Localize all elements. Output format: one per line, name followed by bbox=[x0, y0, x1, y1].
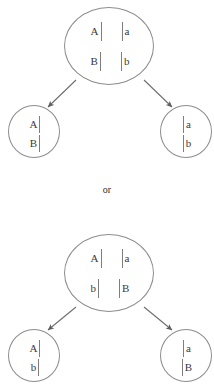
meiosis-segregation-diagram: A a B b A B a b bbox=[0, 0, 214, 384]
daughter-cell-right-outcome-two: a B bbox=[160, 329, 212, 382]
daughter-two-right-row-2: B bbox=[161, 359, 213, 376]
chromatid-bar-icon bbox=[38, 359, 39, 376]
chromatid-bar-icon bbox=[100, 52, 101, 71]
daughter-cell-left-outcome-one: A B bbox=[8, 105, 60, 158]
daughter-cell-right-outcome-one: a b bbox=[160, 105, 212, 158]
chromatid-bar-icon bbox=[39, 135, 40, 152]
chromatid-bar-icon bbox=[183, 116, 184, 133]
parent-cell-outcome-two: A a b B bbox=[64, 234, 154, 312]
daughter-one-right-row-1: a bbox=[161, 116, 213, 133]
allele-label: B bbox=[30, 138, 37, 149]
separator-label: or bbox=[0, 184, 214, 195]
parent-one-row-1: A a bbox=[65, 22, 155, 41]
chromatid-bar-icon bbox=[98, 279, 99, 298]
arrow-parent2-to-left-daughter bbox=[48, 307, 76, 330]
parent-cell-outcome-one: A a B b bbox=[64, 7, 154, 85]
chromatid-bar-icon bbox=[121, 52, 122, 71]
chromatid-bar-icon bbox=[119, 279, 120, 298]
parent-two-row-2: b B bbox=[65, 279, 155, 298]
daughter-one-left-row-2: B bbox=[9, 135, 61, 152]
chromatid-bar-icon bbox=[39, 116, 40, 133]
daughter-one-left-row-1: A bbox=[9, 116, 61, 133]
arrow-parent2-to-right-daughter bbox=[144, 307, 172, 330]
allele-label: b bbox=[124, 56, 130, 67]
chromatid-bar-icon bbox=[183, 135, 184, 152]
arrow-parent1-to-left-daughter bbox=[48, 80, 76, 107]
allele-label: a bbox=[186, 119, 191, 130]
allele-label: A bbox=[91, 26, 99, 37]
parent-two-row-1: A a bbox=[65, 249, 155, 268]
allele-label: b bbox=[91, 283, 97, 294]
allele-label: B bbox=[122, 283, 129, 294]
allele-label: A bbox=[30, 343, 38, 354]
daughter-cell-left-outcome-two: A b bbox=[8, 329, 60, 382]
daughter-one-right-row-2: b bbox=[161, 135, 213, 152]
allele-label: a bbox=[125, 26, 130, 37]
daughter-two-left-row-2: b bbox=[9, 359, 61, 376]
daughter-two-left-row-1: A bbox=[9, 340, 61, 357]
arrow-parent1-to-right-daughter bbox=[144, 80, 172, 107]
chromatid-bar-icon bbox=[182, 359, 183, 376]
allele-label: A bbox=[30, 119, 38, 130]
chromatid-bar-icon bbox=[122, 249, 123, 268]
allele-label: a bbox=[186, 343, 191, 354]
allele-label: b bbox=[186, 138, 192, 149]
parent-one-row-2: B b bbox=[65, 52, 155, 71]
allele-label: a bbox=[125, 253, 130, 264]
chromatid-bar-icon bbox=[122, 22, 123, 41]
allele-label: b bbox=[31, 362, 37, 373]
daughter-two-right-row-1: a bbox=[161, 340, 213, 357]
allele-label: B bbox=[185, 362, 192, 373]
allele-label: A bbox=[91, 253, 99, 264]
allele-label: B bbox=[91, 56, 98, 67]
chromatid-bar-icon bbox=[183, 340, 184, 357]
chromatid-bar-icon bbox=[39, 340, 40, 357]
chromatid-bar-icon bbox=[101, 249, 102, 268]
chromatid-bar-icon bbox=[101, 22, 102, 41]
